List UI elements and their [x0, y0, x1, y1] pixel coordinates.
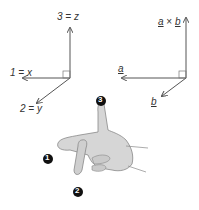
b-vector-arrow: [162, 78, 186, 96]
cross-product-label: a × b: [158, 17, 181, 27]
left-axes: [23, 28, 70, 103]
y-axis-label: 2 = y: [20, 104, 42, 114]
z-axis-label: 3 = z: [57, 12, 79, 22]
x-axis-label: 1 = x: [10, 68, 32, 78]
badge-1-number: 1: [45, 154, 49, 162]
badge-2-number: 2: [75, 187, 79, 195]
hand-curled-finger: [92, 165, 106, 172]
right-angle-marker: [179, 71, 186, 78]
right-angle-marker: [63, 71, 70, 78]
hand-illustration: [58, 102, 148, 175]
badge-3-number: 3: [98, 96, 102, 104]
y-axis-arrow: [37, 78, 70, 103]
b-vector-label: b: [151, 97, 157, 107]
a-vector-label: a: [118, 64, 124, 74]
right-axes: [122, 18, 186, 96]
